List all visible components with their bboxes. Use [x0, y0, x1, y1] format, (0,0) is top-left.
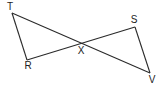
point-label-V: V: [149, 74, 156, 85]
point-label-T: T: [7, 1, 13, 12]
segment-TR: [12, 13, 27, 60]
point-label-X: X: [78, 45, 85, 56]
point-label-S: S: [131, 14, 138, 25]
point-label-R: R: [24, 60, 31, 71]
geometry-diagram: TRXSV: [0, 0, 165, 91]
segment-SV: [135, 27, 150, 73]
